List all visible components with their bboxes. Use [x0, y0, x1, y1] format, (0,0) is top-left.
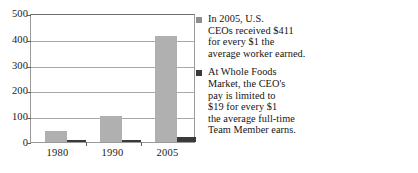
legend-square-icon	[196, 70, 202, 76]
bar-group-1990	[86, 15, 141, 142]
x-tick-label-1980: 1980	[30, 147, 85, 158]
bar-1990-series1	[122, 140, 141, 142]
y-tick-label: 200	[0, 86, 28, 96]
x-tick-label-2005: 2005	[140, 147, 195, 158]
x-tickmark	[86, 142, 87, 146]
bar-group-2005	[141, 15, 196, 142]
y-tick-label: 0	[0, 138, 28, 148]
y-tickmark	[27, 143, 31, 144]
bar-1980-series1	[67, 140, 86, 142]
bar-1990-series0	[100, 116, 122, 142]
legend-item-0: In 2005, U.S. CEOs received $411 for eve…	[196, 13, 412, 59]
chart-legend: In 2005, U.S. CEOs received $411 for eve…	[196, 13, 412, 143]
legend-square-icon	[196, 17, 202, 23]
bar-2005-series0	[155, 36, 177, 142]
legend-item-label: At Whole Foods Market, the CEO's pay is …	[208, 66, 412, 136]
bar-1980-series0	[45, 131, 67, 142]
y-tick-label: 400	[0, 35, 28, 45]
bar-chart: 500 400 300 200 100 0	[0, 0, 212, 173]
y-tick-label: 300	[0, 61, 28, 71]
legend-item-1: At Whole Foods Market, the CEO's pay is …	[196, 66, 412, 136]
x-tick-label-1990: 1990	[85, 147, 140, 158]
y-tick-label: 500	[0, 9, 28, 19]
legend-item-label: In 2005, U.S. CEOs received $411 for eve…	[208, 13, 412, 59]
bar-group-1980	[31, 15, 86, 142]
bar-2005-series1	[177, 137, 196, 142]
plot-area	[30, 14, 195, 143]
x-tickmark	[141, 142, 142, 146]
chart-figure: 500 400 300 200 100 0	[0, 0, 418, 173]
y-tick-label: 100	[0, 112, 28, 122]
y-axis: 500 400 300 200 100 0	[0, 0, 28, 173]
